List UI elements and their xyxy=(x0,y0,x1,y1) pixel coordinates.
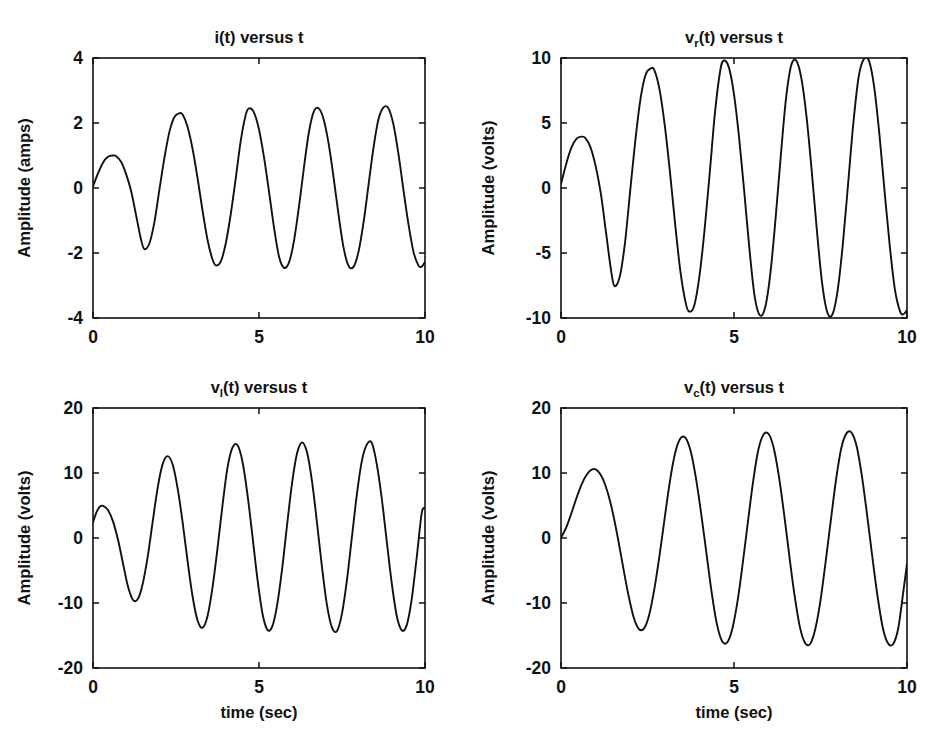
plot-group: vl(t) versus t-20-10010200510Amplitude (… xyxy=(15,378,435,721)
data-curve xyxy=(561,57,907,317)
plot-inductor: vl(t) versus t-20-10010200510Amplitude (… xyxy=(0,350,470,741)
y-tick-label: -20 xyxy=(526,658,552,678)
x-tick-label: 0 xyxy=(88,677,98,697)
axes-frame xyxy=(93,58,425,318)
y-tick-label: 5 xyxy=(541,113,551,133)
y-tick-label: 20 xyxy=(64,398,84,418)
y-axis-label: Amplitude (volts) xyxy=(15,471,33,606)
x-axis-label: time (sec) xyxy=(220,703,297,721)
plot-title: vr(t) versus t xyxy=(685,28,784,49)
y-tick-label: 0 xyxy=(541,178,551,198)
data-curve xyxy=(561,431,907,645)
y-tick-label: 10 xyxy=(532,48,552,68)
x-tick-label: 5 xyxy=(729,327,739,347)
plot-current: i(t) versus t-4-20240510Amplitude (amps) xyxy=(0,0,470,370)
x-tick-label: 0 xyxy=(556,327,566,347)
x-tick-label: 0 xyxy=(556,677,566,697)
panel-capacitor: vc(t) versus t-20-10010200510Amplitude (… xyxy=(464,350,937,741)
figure-canvas: i(t) versus t-4-20240510Amplitude (amps)… xyxy=(0,0,937,741)
y-axis-label: Amplitude (amps) xyxy=(15,118,33,257)
y-tick-label: -5 xyxy=(535,243,551,263)
y-tick-label: 10 xyxy=(532,463,552,483)
axes-frame xyxy=(93,408,425,668)
axes-frame xyxy=(561,408,907,668)
x-tick-label: 5 xyxy=(729,677,739,697)
y-tick-label: -2 xyxy=(67,243,83,263)
y-tick-label: -10 xyxy=(526,593,552,613)
plot-group: vc(t) versus t-20-10010200510Amplitude (… xyxy=(479,378,917,721)
y-tick-label: 4 xyxy=(73,48,83,68)
y-tick-label: -4 xyxy=(67,308,83,328)
data-curve xyxy=(93,441,425,632)
x-tick-label: 10 xyxy=(897,677,917,697)
plot-group: vr(t) versus t-10-505100510Amplitude (vo… xyxy=(479,28,917,347)
panel-inductor: vl(t) versus t-20-10010200510Amplitude (… xyxy=(0,350,470,741)
plot-resistor: vr(t) versus t-10-505100510Amplitude (vo… xyxy=(464,0,937,370)
plot-group: i(t) versus t-4-20240510Amplitude (amps) xyxy=(15,28,435,347)
panel-current: i(t) versus t-4-20240510Amplitude (amps) xyxy=(0,0,470,370)
y-axis-label: Amplitude (volts) xyxy=(479,121,497,256)
y-tick-label: 2 xyxy=(73,113,83,133)
x-tick-label: 5 xyxy=(254,327,264,347)
y-tick-label: -20 xyxy=(58,658,84,678)
y-tick-label: 0 xyxy=(73,528,83,548)
x-axis-label: time (sec) xyxy=(695,703,772,721)
y-tick-label: 20 xyxy=(532,398,552,418)
plot-title: i(t) versus t xyxy=(215,28,304,46)
x-tick-label: 5 xyxy=(254,677,264,697)
plot-capacitor: vc(t) versus t-20-10010200510Amplitude (… xyxy=(464,350,937,741)
plot-title: vl(t) versus t xyxy=(211,378,308,399)
y-tick-label: 10 xyxy=(64,463,84,483)
x-tick-label: 10 xyxy=(415,677,435,697)
data-curve xyxy=(93,106,425,268)
x-tick-label: 10 xyxy=(415,327,435,347)
y-tick-label: -10 xyxy=(58,593,84,613)
plot-title: vc(t) versus t xyxy=(684,378,784,399)
panel-resistor: vr(t) versus t-10-505100510Amplitude (vo… xyxy=(464,0,937,370)
x-tick-label: 10 xyxy=(897,327,917,347)
y-tick-label: 0 xyxy=(541,528,551,548)
y-axis-label: Amplitude (volts) xyxy=(479,471,497,606)
x-tick-label: 0 xyxy=(88,327,98,347)
y-tick-label: 0 xyxy=(73,178,83,198)
y-tick-label: -10 xyxy=(526,308,552,328)
